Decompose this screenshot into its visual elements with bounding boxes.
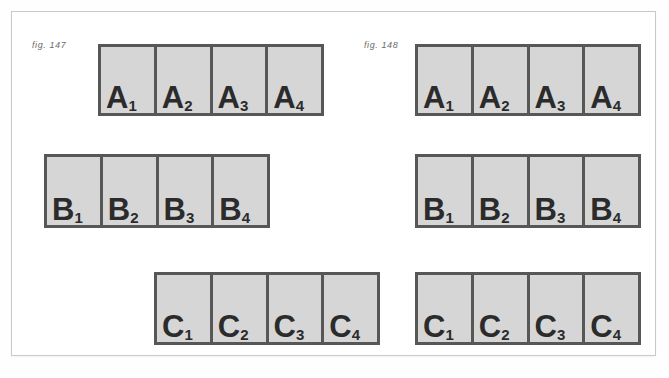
fig147-cell-b4: B4 bbox=[214, 157, 267, 225]
fig148-row-c: C1 C2 C3 C4 bbox=[415, 272, 641, 345]
fig148-cell-b3: B3 bbox=[530, 157, 586, 225]
letter: C bbox=[218, 309, 240, 344]
letter: B bbox=[535, 192, 557, 227]
plate-frame: fig. 147 A1 A2 A3 A4 B1 B2 B3 bbox=[11, 11, 656, 356]
fig148-cell-c3-label: C3 bbox=[530, 312, 566, 342]
fig148-cell-a4: A4 bbox=[585, 47, 638, 113]
fig148-cell-c2: C2 bbox=[474, 275, 530, 342]
letter: A bbox=[218, 80, 240, 115]
fig148-cell-a1: A1 bbox=[418, 47, 474, 113]
fig148-cell-b4: B4 bbox=[585, 157, 638, 225]
figure-plate: fig. 147 A1 A2 A3 A4 B1 B2 B3 bbox=[0, 0, 669, 378]
letter: A bbox=[273, 80, 295, 115]
fig147-row-a: A1 A2 A3 A4 bbox=[98, 44, 324, 116]
letter: C bbox=[479, 309, 501, 344]
letter: A bbox=[423, 80, 445, 115]
fig148-cell-a3: A3 bbox=[530, 47, 586, 113]
subscript: 2 bbox=[501, 326, 509, 343]
fig148-cell-b4-label: B4 bbox=[585, 195, 621, 225]
letter: C bbox=[329, 309, 351, 344]
fig148-cell-a3-label: A3 bbox=[530, 83, 566, 113]
letter: C bbox=[423, 309, 445, 344]
fig148-cell-b2: B2 bbox=[474, 157, 530, 225]
fig147-cell-c4-label: C4 bbox=[324, 312, 360, 342]
subscript: 4 bbox=[613, 209, 621, 226]
subscript: 1 bbox=[445, 97, 453, 114]
fig148-cell-c4: C4 bbox=[585, 275, 638, 342]
subscript: 1 bbox=[445, 209, 453, 226]
subscript: 2 bbox=[130, 209, 138, 226]
fig148-cell-c1-label: C1 bbox=[418, 312, 454, 342]
fig148-cell-a4-label: A4 bbox=[585, 83, 621, 113]
subscript: 1 bbox=[74, 209, 82, 226]
fig148-cell-b3-label: B3 bbox=[530, 195, 566, 225]
subscript: 2 bbox=[501, 209, 509, 226]
subscript: 3 bbox=[557, 209, 565, 226]
letter: B bbox=[164, 192, 186, 227]
subscript: 4 bbox=[242, 209, 250, 226]
fig148-cell-a1-label: A1 bbox=[418, 83, 454, 113]
subscript: 3 bbox=[186, 209, 194, 226]
letter: C bbox=[162, 309, 184, 344]
subscript: 4 bbox=[296, 97, 304, 114]
letter: B bbox=[423, 192, 445, 227]
fig147-cell-b3: B3 bbox=[159, 157, 215, 225]
subscript: 4 bbox=[613, 326, 621, 343]
subscript: 3 bbox=[296, 326, 304, 343]
fig147-cell-c1-label: C1 bbox=[157, 312, 193, 342]
fig147-cell-b2: B2 bbox=[103, 157, 159, 225]
letter: C bbox=[590, 309, 612, 344]
fig147-cell-c2: C2 bbox=[213, 275, 269, 342]
letter: C bbox=[535, 309, 557, 344]
subscript: 2 bbox=[240, 326, 248, 343]
fig147-row-b: B1 B2 B3 B4 bbox=[44, 154, 270, 228]
subscript: 1 bbox=[128, 97, 136, 114]
fig148-cell-c4-label: C4 bbox=[585, 312, 621, 342]
fig147-cell-a3: A3 bbox=[213, 47, 269, 113]
subscript: 3 bbox=[557, 326, 565, 343]
letter: A bbox=[590, 80, 612, 115]
letter: A bbox=[479, 80, 501, 115]
letter: B bbox=[590, 192, 612, 227]
fig147-cell-c2-label: C2 bbox=[213, 312, 249, 342]
fig148-cell-a2-label: A2 bbox=[474, 83, 510, 113]
fig148-cell-c1: C1 bbox=[418, 275, 474, 342]
fig147-cell-b4-label: B4 bbox=[214, 195, 250, 225]
subscript: 3 bbox=[557, 97, 565, 114]
subscript: 4 bbox=[613, 97, 621, 114]
fig147-cell-c3-label: C3 bbox=[269, 312, 305, 342]
fig148-cell-a2: A2 bbox=[474, 47, 530, 113]
subscript: 2 bbox=[501, 97, 509, 114]
letter: B bbox=[52, 192, 74, 227]
fig147-cell-c3: C3 bbox=[269, 275, 325, 342]
subscript: 3 bbox=[240, 97, 248, 114]
fig148-cell-b1-label: B1 bbox=[418, 195, 454, 225]
subscript: 2 bbox=[184, 97, 192, 114]
figure-caption-147: fig. 147 bbox=[32, 40, 66, 50]
figure-caption-148: fig. 148 bbox=[364, 40, 398, 50]
subscript: 4 bbox=[352, 326, 360, 343]
fig147-cell-a2-label: A2 bbox=[157, 83, 193, 113]
fig148-cell-b1: B1 bbox=[418, 157, 474, 225]
letter: A bbox=[162, 80, 184, 115]
letter: B bbox=[479, 192, 501, 227]
fig147-cell-c4: C4 bbox=[324, 275, 377, 342]
fig147-cell-a1: A1 bbox=[101, 47, 157, 113]
fig147-cell-b2-label: B2 bbox=[103, 195, 139, 225]
fig147-cell-b1: B1 bbox=[47, 157, 103, 225]
fig147-cell-a4: A4 bbox=[268, 47, 321, 113]
subscript: 1 bbox=[445, 326, 453, 343]
fig147-cell-a1-label: A1 bbox=[101, 83, 137, 113]
subscript: 1 bbox=[184, 326, 192, 343]
letter: C bbox=[274, 309, 296, 344]
fig147-row-c: C1 C2 C3 C4 bbox=[154, 272, 380, 345]
fig148-cell-c3: C3 bbox=[530, 275, 586, 342]
fig147-cell-c1: C1 bbox=[157, 275, 213, 342]
fig148-cell-c2-label: C2 bbox=[474, 312, 510, 342]
letter: B bbox=[219, 192, 241, 227]
letter: A bbox=[106, 80, 128, 115]
fig148-row-b: B1 B2 B3 B4 bbox=[415, 154, 641, 228]
fig147-cell-a3-label: A3 bbox=[213, 83, 249, 113]
fig147-cell-a4-label: A4 bbox=[268, 83, 304, 113]
fig148-row-a: A1 A2 A3 A4 bbox=[415, 44, 641, 116]
